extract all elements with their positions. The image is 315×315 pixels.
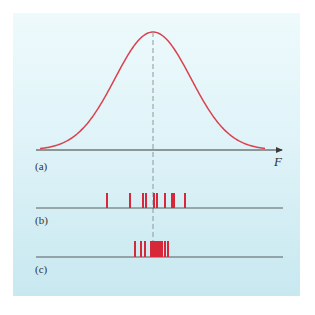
axis-label-f: F	[274, 154, 282, 170]
measurement-tick	[159, 241, 161, 257]
measurement-tick	[153, 193, 155, 208]
label-b: (b)	[35, 214, 48, 226]
measurement-tick	[164, 241, 166, 257]
measurement-tick	[156, 193, 158, 208]
row-c-ticks	[134, 241, 169, 257]
measurement-tick	[134, 241, 136, 257]
measurement-tick	[184, 193, 186, 208]
measurement-tick	[167, 241, 169, 257]
measurement-tick	[106, 193, 108, 208]
gaussian-distribution-diagram	[0, 0, 315, 315]
measurement-tick	[164, 193, 166, 208]
measurement-tick	[157, 241, 159, 257]
measurement-tick	[153, 241, 155, 257]
measurement-tick	[145, 193, 147, 208]
measurement-tick	[140, 241, 142, 257]
measurement-tick	[173, 193, 175, 208]
label-a: (a)	[35, 160, 47, 172]
measurement-tick	[171, 193, 173, 208]
measurement-tick	[161, 241, 163, 257]
measurement-tick	[129, 193, 131, 208]
measurement-tick	[144, 241, 146, 257]
label-c: (c)	[35, 263, 47, 275]
measurement-tick	[151, 241, 153, 257]
measurement-tick	[155, 241, 157, 257]
row-b-ticks	[106, 193, 186, 208]
measurement-tick	[142, 193, 144, 208]
